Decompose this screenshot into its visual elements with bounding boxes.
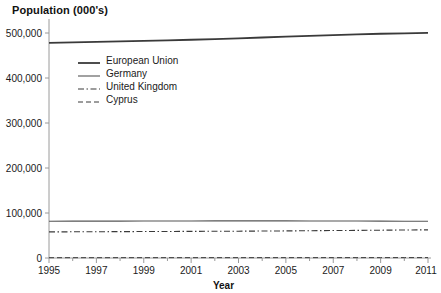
legend-item-united-kingdom[interactable]: United Kingdom: [78, 80, 178, 93]
legend-item-germany[interactable]: Germany: [78, 67, 178, 80]
y-axis-tick-label: 500,000: [0, 28, 42, 39]
y-axis-tick-label: 0: [0, 253, 42, 264]
legend-line-swatch-icon: [78, 94, 100, 106]
x-axis-tick-label: 1997: [85, 265, 107, 276]
x-axis-tick-label: 1995: [38, 265, 60, 276]
legend-item-european-union[interactable]: European Union: [78, 54, 178, 67]
legend-line-swatch-icon: [78, 81, 100, 93]
legend-label: European Union: [106, 55, 178, 67]
y-axis-tick-label: 200,000: [0, 163, 42, 174]
series-line-european-union: [49, 33, 428, 43]
series-line-united-kingdom: [49, 230, 428, 232]
y-axis-tick-label: 100,000: [0, 208, 42, 219]
x-axis-tick-label: 2011: [415, 265, 437, 276]
x-axis-tick-label: 2001: [180, 265, 202, 276]
legend-item-cyprus[interactable]: Cyprus: [78, 93, 178, 106]
legend-label: Germany: [106, 68, 147, 80]
plot-area: [0, 0, 441, 293]
x-axis-tick-label: 2007: [322, 265, 344, 276]
population-line-chart: Population (000's) 0100,000200,000300,00…: [0, 0, 441, 293]
x-axis-title: Year: [213, 280, 234, 291]
legend-label: United Kingdom: [106, 81, 177, 93]
x-axis-tick-label: 1999: [133, 265, 155, 276]
y-axis-tick-label: 300,000: [0, 118, 42, 129]
chart-legend: European UnionGermanyUnited KingdomCypru…: [78, 54, 178, 106]
legend-line-swatch-icon: [78, 68, 100, 80]
x-axis-tick-label: 2009: [370, 265, 392, 276]
x-axis-tick-label: 2003: [227, 265, 249, 276]
y-axis-tick-label: 400,000: [0, 73, 42, 84]
legend-line-swatch-icon: [78, 55, 100, 67]
legend-label: Cyprus: [106, 94, 138, 106]
x-axis-tick-label: 2005: [275, 265, 297, 276]
